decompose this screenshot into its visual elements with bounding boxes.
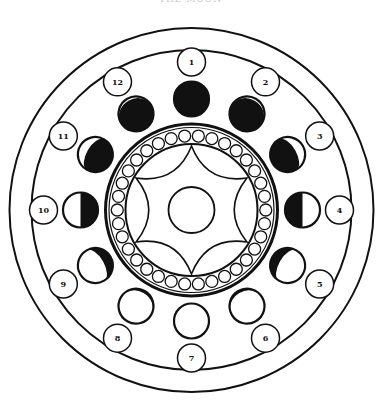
bead-icon [240,254,252,266]
phase-label-5: 5 [306,270,334,298]
bead-icon [141,263,153,275]
bead-icon [122,165,134,177]
phase-label-7: 7 [178,344,206,372]
moon-phase-diagram: 123456789101112 [0,0,381,407]
phase-label-3: 3 [306,122,334,150]
phase-label-2: 2 [252,68,280,96]
phase-number: 11 [58,131,69,141]
bead-icon [249,243,261,255]
bead-icon [219,270,231,282]
bead-icon [111,204,123,216]
bead-icon [152,138,164,150]
bead-icon [179,130,191,142]
moon-phase-11-icon [71,131,119,179]
bead-icon [141,145,153,157]
bead-icon [255,177,267,189]
bead-icon [116,177,128,189]
moon-phase-7-icon [174,304,209,339]
phase-number: 12 [112,77,123,87]
bead-icon [206,275,218,287]
bead-icon [255,231,267,243]
bead-icon [230,263,242,275]
moon-phase-6-icon [223,282,271,330]
bead-icon [192,278,204,290]
phase-label-1: 1 [178,48,206,76]
bead-icon [179,278,191,290]
phase-number: 1 [189,57,195,67]
bead-icon [122,243,134,255]
moon-phase-12-icon [112,90,160,138]
bead-icon [113,190,125,202]
bead-icon [258,218,270,230]
phase-number: 5 [317,279,323,289]
bead-icon [131,154,143,166]
phase-number: 7 [189,353,195,363]
moon-phase-5-icon [264,242,312,290]
phase-label-4: 4 [326,196,354,224]
moon-phase-8-icon [112,282,160,330]
moon-phase-1-icon [174,82,209,117]
bead-icon [152,270,164,282]
phase-label-8: 8 [104,324,132,352]
bead-icon [240,154,252,166]
bead-icon [165,133,177,145]
phase-number: 8 [115,333,121,343]
bead-icon [113,218,125,230]
phase-label-12: 12 [104,68,132,96]
phase-number: 9 [61,279,67,289]
center-circle [169,187,215,233]
phase-label-11: 11 [49,122,77,150]
phase-number: 6 [263,333,269,343]
bead-icon [192,130,204,142]
bead-icon [206,133,218,145]
phase-number: 4 [337,205,343,215]
phase-number: 10 [38,205,50,215]
bead-icon [116,231,128,243]
moon-phase-2-icon [223,90,271,138]
moon-phase-10-icon [63,193,98,228]
moon-phase-4-icon [285,193,320,228]
phase-label-9: 9 [49,270,77,298]
six-point-star-icon [136,146,247,274]
phase-number: 3 [317,131,323,141]
bead-icon [230,145,242,157]
phase-label-10: 10 [30,196,58,224]
bead-icon [165,275,177,287]
bead-icon [258,190,270,202]
moon-phase-9-icon [71,242,119,290]
bead-icon [131,254,143,266]
bead-icon [219,138,231,150]
phase-label-6: 6 [252,324,280,352]
moon-phase-3-icon [264,131,312,179]
bead-icon [260,204,272,216]
bead-icon [249,165,261,177]
phase-number: 2 [263,77,269,87]
